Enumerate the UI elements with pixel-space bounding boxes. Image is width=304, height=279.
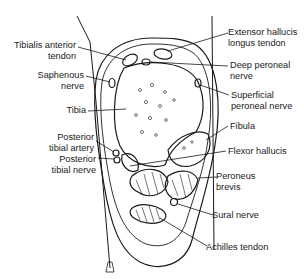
tibia-shape [114,63,203,167]
label-achilles-tendon: Achilles tendon [206,242,268,253]
label-saphenous-nerve: Saphenous nerve [6,70,84,92]
label-line: Peroneus [216,171,255,182]
achilles-shape [129,203,167,226]
label-line: peroneal nerve [231,101,292,112]
label-tibia: Tibia [6,105,86,116]
label-line: Posterior [6,132,94,143]
label-line: Posterior [6,154,96,165]
label-deep-peroneal-nerve: Deep peroneal nerve [230,60,290,82]
label-fibula: Fibula [230,121,255,132]
label-peroneus-brevis: Peroneus brevis [216,171,255,193]
label-tibialis-anterior-tendon: Tibialis anterior tendon [6,40,76,62]
label-line: Tibialis anterior [6,40,76,51]
label-line: tibial nerve [6,165,96,176]
label-line: Deep peroneal [230,60,290,71]
label-sural-nerve: Sural nerve [212,210,259,221]
label-line: tendon [6,51,76,62]
ankle-cross-section-diagram: Tibialis anterior tendon Saphenous nerve… [0,0,304,279]
label-line: Saphenous [6,70,84,81]
label-line: Extensor hallucis [228,27,297,38]
label-posterior-tibial-artery: Posterior tibial artery [6,132,94,154]
label-line: tibial artery [6,143,94,154]
label-line: brevis [216,182,255,193]
label-superficial-peroneal-nerve: Superficial peroneal nerve [231,90,292,112]
label-line: nerve [6,81,84,92]
label-line: nerve [230,71,290,82]
label-posterior-tibial-nerve: Posterior tibial nerve [6,154,96,176]
label-line: longus tendon [228,38,297,49]
label-flexor-hallucis: Flexor hallucis [228,146,287,157]
label-extensor-hallucis-longus-tendon: Extensor hallucis longus tendon [228,27,297,49]
label-line: Superficial [231,90,292,101]
